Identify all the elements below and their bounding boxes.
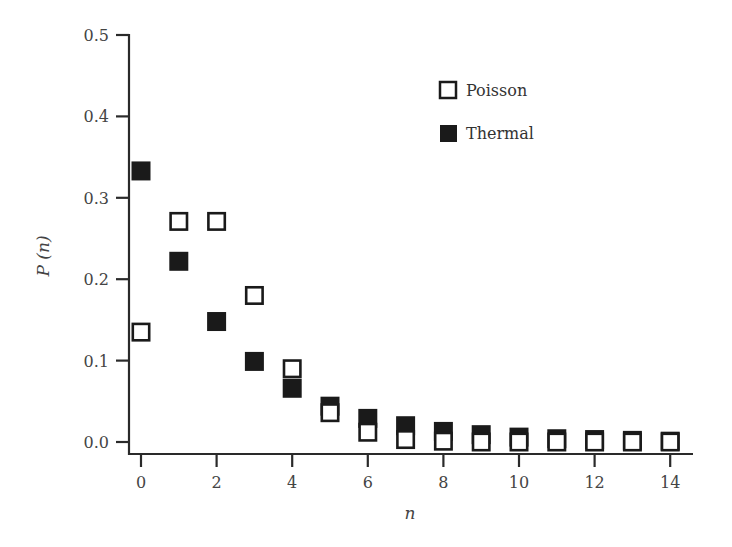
- y-tick-label: 0.3: [84, 189, 109, 208]
- y-tick-label: 0.0: [84, 433, 109, 452]
- y-tick-label: 0.2: [84, 270, 109, 289]
- y-tick-label: 0.5: [84, 26, 109, 45]
- x-tick-label: 8: [438, 473, 448, 492]
- legend-label-poisson: Poisson: [466, 81, 527, 100]
- thermal-point: [283, 379, 302, 398]
- x-tick-label: 10: [509, 473, 529, 492]
- thermal-point: [245, 352, 264, 371]
- y-tick-label: 0.4: [84, 107, 109, 126]
- x-tick-label: 12: [584, 473, 604, 492]
- thermal-point: [207, 312, 226, 331]
- poisson-point: [133, 324, 149, 340]
- x-tick-label: 6: [363, 473, 373, 492]
- x-axis-title: n: [405, 503, 416, 523]
- x-tick-label: 0: [136, 473, 146, 492]
- poisson-point: [284, 361, 300, 377]
- y-tick-label: 0.1: [84, 352, 109, 371]
- x-tick-label: 14: [660, 473, 680, 492]
- filled-square-icon: [440, 125, 457, 142]
- poisson-point: [624, 434, 640, 450]
- poisson-point: [435, 433, 451, 449]
- poisson-point: [246, 287, 262, 303]
- x-tick-label: 4: [287, 473, 297, 492]
- poisson-point: [322, 404, 338, 420]
- thermal-point: [169, 252, 188, 271]
- poisson-point: [208, 213, 224, 229]
- legend: Poisson Thermal: [440, 81, 534, 143]
- open-square-icon: [440, 82, 456, 98]
- thermal-point: [132, 161, 151, 180]
- legend-item-thermal: Thermal: [440, 124, 534, 143]
- poisson-point: [549, 434, 565, 450]
- x-axis: 02468101214: [128, 454, 693, 492]
- y-axis: 0.00.10.20.30.40.5: [84, 26, 129, 455]
- poisson-point: [586, 434, 602, 450]
- poisson-point: [171, 213, 187, 229]
- poisson-point: [662, 434, 678, 450]
- plot-area: [132, 161, 680, 450]
- poisson-point: [397, 431, 413, 447]
- y-axis-title: P (n): [33, 235, 53, 277]
- poisson-point: [473, 434, 489, 450]
- poisson-point: [511, 434, 527, 450]
- legend-item-poisson: Poisson: [440, 81, 527, 100]
- legend-label-thermal: Thermal: [466, 124, 534, 143]
- poisson-point: [360, 424, 376, 440]
- photon-distribution-chart: 0.00.10.20.30.40.5 02468101214 P (n) n P…: [0, 0, 732, 547]
- x-tick-label: 2: [212, 473, 222, 492]
